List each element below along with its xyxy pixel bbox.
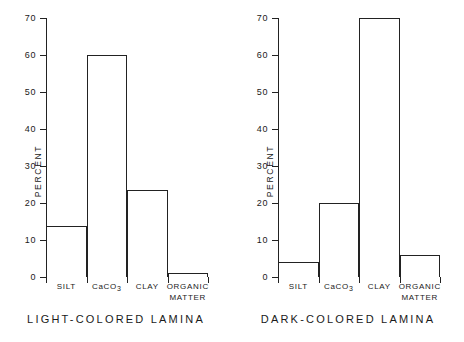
y-axis-tick-label: 10 (6, 235, 36, 245)
y-axis-tick-label: 30 (238, 161, 268, 171)
plot-area-right: 010203040506070 (278, 18, 440, 277)
y-axis-tick (40, 55, 46, 56)
x-axis-category-labels-right: SILTCaCO3CLAYORGANIC MATTER (278, 281, 440, 311)
y-axis-tick-label: 70 (238, 13, 268, 23)
bar-organic-matter (400, 255, 441, 277)
y-axis-tick (40, 129, 46, 130)
y-axis-tick-label: 0 (6, 272, 36, 282)
chart-panel-dark-colored-lamina: PERCENT 010203040506070 SILTCaCO3CLAYORG… (232, 0, 464, 342)
y-axis-tick (272, 55, 278, 56)
y-axis-tick (272, 203, 278, 204)
y-axis-line-right (278, 18, 279, 277)
y-axis-tick-label: 40 (238, 124, 268, 134)
x-axis-category-label: ORGANIC MATTER (393, 281, 448, 303)
y-axis-tick-label: 50 (6, 87, 36, 97)
x-axis-category-label: ORGANIC MATTER (161, 281, 216, 303)
y-axis-tick-label: 70 (6, 13, 36, 23)
y-axis-tick-label: 20 (6, 198, 36, 208)
bar-caco3 (319, 203, 360, 277)
y-axis-tick (272, 166, 278, 167)
y-axis-tick (272, 240, 278, 241)
bar-silt (278, 262, 319, 277)
y-axis-tick-label: 50 (238, 87, 268, 97)
bar-organic-matter (168, 273, 209, 277)
y-axis-tick (40, 166, 46, 167)
y-axis-tick (272, 129, 278, 130)
y-axis-title-right: PERCENT (265, 145, 275, 198)
bar-silt (46, 226, 87, 277)
y-axis-tick-label: 20 (238, 198, 268, 208)
y-axis-tick (272, 92, 278, 93)
y-axis-tick-label: 60 (6, 50, 36, 60)
y-axis-title-left: PERCENT (33, 145, 43, 198)
y-axis-tick (272, 18, 278, 19)
figure-two-bar-charts: PERCENT 010203040506070 SILTCaCO3CLAYORG… (0, 0, 464, 342)
chart-panel-light-colored-lamina: PERCENT 010203040506070 SILTCaCO3CLAYORG… (0, 0, 232, 342)
x-axis-category-labels-left: SILTCaCO3CLAYORGANIC MATTER (46, 281, 208, 311)
y-axis-tick-label: 40 (6, 124, 36, 134)
y-axis-tick-label: 10 (238, 235, 268, 245)
bar-caco3 (87, 55, 128, 277)
bar-clay (359, 18, 400, 277)
bar-clay (127, 190, 168, 277)
plot-area-left: 010203040506070 (46, 18, 208, 277)
y-axis-tick (40, 18, 46, 19)
y-axis-tick-label: 30 (6, 161, 36, 171)
y-axis-tick-label: 60 (238, 50, 268, 60)
panel-caption-left: LIGHT-COLORED LAMINA (0, 313, 232, 325)
y-axis-tick (40, 92, 46, 93)
panel-caption-right: DARK-COLORED LAMINA (232, 313, 464, 325)
y-axis-tick (40, 203, 46, 204)
y-axis-tick-label: 0 (238, 272, 268, 282)
